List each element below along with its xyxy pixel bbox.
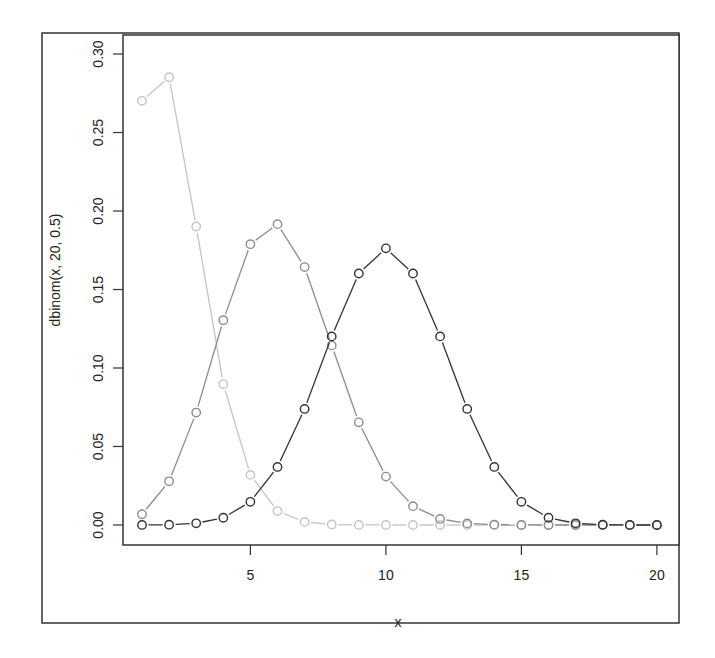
- y-tick-label: 0.20: [90, 197, 106, 224]
- y-axis-title: dbinom(x, 20, 0.5): [47, 214, 63, 327]
- binomial-density-chart: 0.000.050.100.150.200.250.30 5101520 x d…: [0, 0, 715, 658]
- x-tick-label: 20: [649, 567, 665, 583]
- x-tick-label: 15: [514, 567, 530, 583]
- series-segment: [582, 524, 596, 525]
- x-axis: 5101520: [247, 545, 665, 583]
- y-axis: 0.000.050.100.150.200.250.30: [90, 40, 123, 538]
- y-tick-label: 0.25: [90, 119, 106, 146]
- y-tick-label: 0.00: [90, 511, 106, 538]
- y-tick-label: 0.10: [90, 354, 106, 381]
- y-tick-label: 0.30: [90, 40, 106, 67]
- series-segment: [474, 524, 488, 525]
- y-tick-label: 0.15: [90, 276, 106, 303]
- y-tick-label: 0.05: [90, 433, 106, 460]
- x-tick-label: 5: [247, 567, 255, 583]
- x-tick-label: 10: [378, 567, 394, 583]
- plot-area-box: [123, 35, 679, 545]
- series-segment: [176, 524, 190, 525]
- x-axis-title: x: [395, 614, 402, 630]
